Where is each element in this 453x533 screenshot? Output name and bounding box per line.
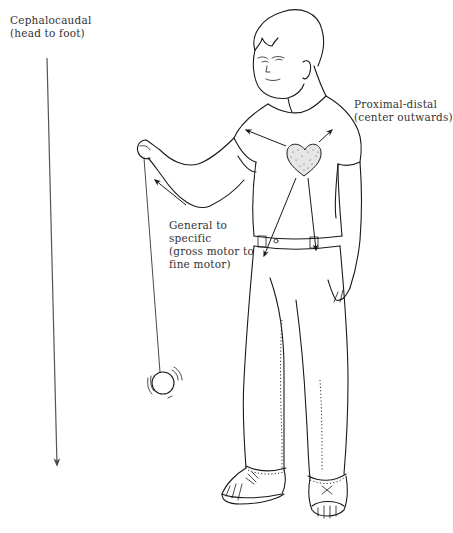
general-specific-line2: specific bbox=[169, 232, 254, 245]
cephalocaudal-subtitle: (head to foot) bbox=[10, 27, 92, 40]
proximal-distal-label: Proximal-distal (center outwards) bbox=[354, 98, 453, 124]
proximal-distal-subtitle: (center outwards) bbox=[354, 111, 453, 124]
general-specific-line3: (gross motor to bbox=[169, 245, 254, 258]
proximal-distal-title: Proximal-distal bbox=[354, 98, 453, 111]
cephalocaudal-label: Cephalocaudal (head to foot) bbox=[10, 14, 92, 40]
heart-icon bbox=[287, 144, 321, 176]
cephalocaudal-title: Cephalocaudal bbox=[10, 14, 92, 27]
general-specific-line1: General to bbox=[169, 219, 254, 232]
general-specific-arrow bbox=[155, 180, 186, 205]
cephalocaudal-arrow bbox=[47, 58, 57, 465]
general-specific-line4: fine motor) bbox=[169, 258, 254, 271]
general-specific-label: General to specific (gross motor to fine… bbox=[169, 219, 254, 271]
